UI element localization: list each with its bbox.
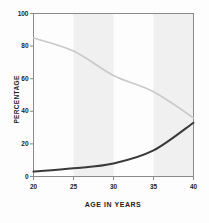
- chart-figure: PERCENTAGE AGE IN YEARS 020406080100 202…: [0, 0, 209, 223]
- shaded-bands: [74, 14, 194, 177]
- plot-area: [0, 0, 209, 223]
- shaded-band: [74, 14, 114, 177]
